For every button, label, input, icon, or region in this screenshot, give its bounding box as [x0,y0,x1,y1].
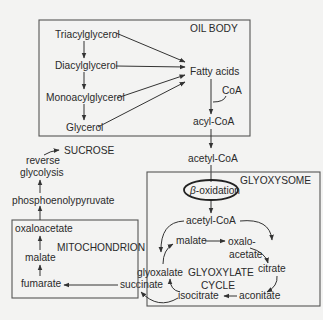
arrow-glycerol-to-fa [98,82,185,127]
node-reverse: reverse [26,155,60,166]
coa-input-curve [213,96,226,102]
mitochondrion-label: MITOCHONDRION [57,242,145,253]
glyoxylate-pathway-diagram: OIL BODY Triacylglycerol Diacylglycerol … [0,0,323,320]
arrow-dag-to-fa [116,66,185,67]
node-oxaloacetate-mito: oxaloacetate [15,223,73,234]
node-sucrose: SUCROSE [64,145,115,156]
node-diacylglycerol: Diacylglycerol [55,60,118,71]
node-phosphoenolpyruvate: phosphoenolypyruvate [12,195,115,206]
node-acetyl-coa-transit: acetyl-CoA [188,153,238,164]
node-malate-glyoxysome: malate [176,235,207,246]
node-monoacylglycerol: Monoacylglycerol [46,92,125,103]
arrow-mag-to-fa [117,75,185,98]
oil-body-label: OIL BODY [190,23,238,34]
node-acetyl-coa-glyoxysome: acetyl-CoA [186,215,236,226]
node-citrate: citrate [258,263,286,274]
node-coa: CoA [222,85,242,96]
node-oxalo: oxalo- [228,236,256,247]
node-glycolysis: glycolysis [20,167,64,178]
node-isocitrate: isocitrate [178,290,219,301]
node-fumarate: fumarate [21,278,62,289]
node-glycerol: Glycerol [66,122,103,133]
node-acyl-coa: acyl-CoA [193,116,235,127]
cycle-label-line2: CYCLE [201,280,235,291]
arrow-glyoxalate-to-malate [163,244,173,264]
node-beta-oxidation: β-oxidation [189,185,240,196]
node-malate-mito: malate [25,252,56,263]
node-succinate: succinate [120,279,163,290]
node-aconitate: aconitate [239,290,281,301]
arrow-tag-to-fa [116,33,185,62]
glyoxysome-label: GLYOXYSOME [240,175,311,186]
node-triacylglycerol: Triacylglycerol [55,29,120,40]
node-glyoxalate: glyoxalate [137,267,183,278]
node-fatty-acids: Fatty acids [190,66,239,77]
cycle-label-line1: GLYOXYLATE [188,267,254,278]
